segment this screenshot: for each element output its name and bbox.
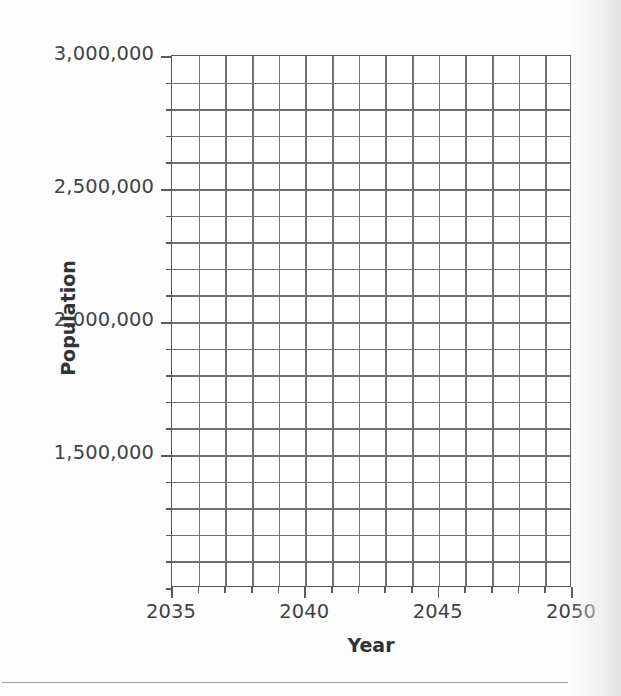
y-axis-tick-labels: 3,000,0002,500,0002,000,0001,500,000	[0, 0, 154, 696]
gridline-horizontal-1100000	[172, 561, 570, 563]
y-tick-major-3000000	[161, 56, 172, 58]
x-tick-minor-2047	[491, 587, 493, 593]
gridline-horizontal-1300000	[172, 508, 570, 510]
y-tick-minor-1200000	[166, 535, 172, 537]
y-tick-minor-2700000	[166, 136, 172, 138]
x-axis-title: Year	[171, 634, 571, 656]
y-tick-label-2500000: 2,500,000	[54, 175, 154, 198]
x-tick-major-2035	[171, 587, 173, 598]
y-tick-minor-2900000	[166, 83, 172, 85]
x-tick-minor-2036	[198, 587, 200, 593]
gridline-horizontal-1700000	[172, 402, 570, 404]
figure-page: Population 3,000,0002,500,0002,000,0001,…	[0, 0, 621, 696]
y-tick-label-1500000: 1,500,000	[54, 441, 154, 464]
gridline-horizontal-2600000	[172, 162, 570, 164]
gridline-horizontal-2000000	[172, 322, 570, 324]
y-tick-major-2000000	[161, 322, 172, 324]
gridline-horizontal-1900000	[172, 349, 570, 351]
x-tick-major-2040	[304, 587, 306, 598]
x-axis-ticks	[171, 587, 571, 601]
x-tick-label-2040: 2040	[279, 600, 329, 623]
gridline-horizontal-2200000	[172, 269, 570, 271]
x-tick-major-2045	[438, 587, 440, 598]
y-tick-minor-2400000	[166, 216, 172, 218]
y-tick-minor-1100000	[166, 561, 172, 563]
x-tick-minor-2043	[384, 587, 386, 593]
y-tick-minor-1600000	[166, 428, 172, 430]
gridline-horizontal-2500000	[172, 189, 570, 191]
y-tick-minor-2800000	[166, 109, 172, 111]
gridline-horizontal-1500000	[172, 455, 570, 457]
y-tick-minor-1900000	[166, 349, 172, 351]
y-tick-major-1500000	[161, 455, 172, 457]
y-tick-major-2500000	[161, 189, 172, 191]
gridline-horizontal-2300000	[172, 242, 570, 244]
gridline-horizontal-2700000	[172, 136, 570, 138]
y-tick-label-3000000: 3,000,000	[54, 42, 154, 65]
gridline-horizontal-1200000	[172, 535, 570, 537]
y-tick-minor-1300000	[166, 508, 172, 510]
y-tick-minor-1700000	[166, 402, 172, 404]
y-tick-minor-1800000	[166, 375, 172, 377]
x-tick-minor-2042	[358, 587, 360, 593]
x-axis-tick-labels: 2035204020452050	[171, 600, 571, 626]
y-tick-minor-2100000	[166, 295, 172, 297]
gridline-horizontal-2400000	[172, 216, 570, 218]
x-tick-label-2035: 2035	[146, 600, 196, 623]
gridline-horizontal-1800000	[172, 375, 570, 377]
x-tick-minor-2046	[464, 587, 466, 593]
x-tick-minor-2038	[251, 587, 253, 593]
y-tick-minor-2300000	[166, 242, 172, 244]
x-tick-minor-2039	[278, 587, 280, 593]
x-tick-label-2050: 2050	[546, 600, 596, 623]
page-divider-rule	[2, 682, 568, 683]
gridline-horizontal-2800000	[172, 109, 570, 111]
x-tick-major-2050	[571, 587, 573, 598]
gridline-horizontal-1400000	[172, 482, 570, 484]
x-tick-label-2045: 2045	[413, 600, 463, 623]
x-tick-minor-2044	[411, 587, 413, 593]
y-tick-label-2000000: 2,000,000	[54, 308, 154, 331]
y-tick-minor-2600000	[166, 162, 172, 164]
x-tick-minor-2041	[331, 587, 333, 593]
x-tick-minor-2049	[544, 587, 546, 593]
y-tick-minor-2200000	[166, 269, 172, 271]
y-tick-minor-1400000	[166, 482, 172, 484]
plot-area	[171, 55, 571, 587]
x-tick-minor-2048	[518, 587, 520, 593]
gridline-horizontal-2900000	[172, 83, 570, 85]
gridline-horizontal-2100000	[172, 295, 570, 297]
x-tick-minor-2037	[224, 587, 226, 593]
gridline-horizontal-1600000	[172, 428, 570, 430]
